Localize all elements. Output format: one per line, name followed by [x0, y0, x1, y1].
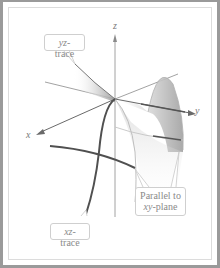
figure-frame: z y x yz-trace xz-trace Parallel to xy-p… [0, 0, 220, 268]
saddle-diagram [3, 2, 220, 268]
callout-line-1: Parallel to [140, 190, 181, 201]
parallel-xy-plane-callout: Parallel to xy-plane [135, 187, 186, 216]
callout-italic: xz [64, 226, 72, 237]
xz-trace-curve [86, 99, 115, 214]
callout-italic: yz [59, 37, 67, 48]
parallel-trace-curve [50, 146, 135, 168]
x-axis [41, 99, 115, 132]
surface-left-wing [73, 64, 115, 102]
y-axis-label: y [195, 105, 199, 116]
z-axis-label: z [113, 20, 117, 31]
xz-trace-callout: xz-trace [50, 223, 90, 240]
x-axis-label: x [26, 129, 30, 140]
surface-center-curve [115, 99, 136, 202]
x-axis-arrow [36, 129, 45, 135]
yz-trace-callout: yz-trace [44, 34, 85, 51]
callout-text: -plane [152, 201, 177, 212]
xz-callout-pointer [81, 210, 87, 216]
z-axis-arrow [113, 34, 117, 42]
callout-line-2: xy-plane [140, 201, 181, 212]
